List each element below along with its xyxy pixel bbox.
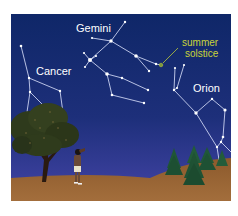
orion-label: Orion bbox=[193, 82, 220, 94]
night-sky-illustration: Gemini Cancer Orion summer solstice bbox=[11, 14, 231, 201]
solstice-label: solstice bbox=[185, 48, 219, 59]
sky-scene: Gemini Cancer Orion summer solstice bbox=[11, 14, 231, 201]
summer-label: summer bbox=[182, 37, 219, 48]
cancer-label: Cancer bbox=[36, 65, 72, 77]
gemini-label: Gemini bbox=[76, 22, 111, 34]
